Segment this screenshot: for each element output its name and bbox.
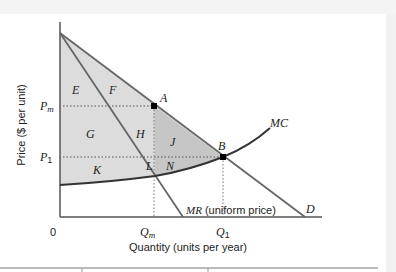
region-l-label: L [145, 159, 153, 173]
x-axis-title: Quantity (units per year) [129, 241, 247, 253]
region-j-label: J [170, 135, 176, 149]
region-k-label: K [92, 163, 102, 177]
origin-label: 0 [50, 226, 56, 238]
mc-label: MC [269, 116, 289, 130]
point-a [151, 103, 157, 109]
p1-tick-label: P1 [39, 150, 52, 165]
region-h-label: H [135, 127, 146, 141]
region-f-label: F [108, 83, 117, 97]
pm-tick-label: Pm [39, 99, 54, 114]
region-g-label: G [86, 127, 95, 141]
monopoly-chart: E F G H J K L N A B D MC MR (uniform pri… [0, 0, 396, 272]
region-n-label: N [165, 159, 175, 173]
mr-label: MR (uniform price) [185, 204, 276, 216]
demand-label: D [305, 202, 315, 216]
point-a-label: A [159, 91, 168, 105]
y-axis-title: Price ($ per unit) [15, 84, 27, 165]
qm-tick-label: Qm [140, 225, 156, 240]
q1-tick-label: Q1 [216, 225, 230, 240]
point-b [220, 154, 226, 160]
point-b-label: B [218, 139, 226, 153]
deadweight-region [154, 106, 223, 176]
region-e-label: E [71, 83, 80, 97]
